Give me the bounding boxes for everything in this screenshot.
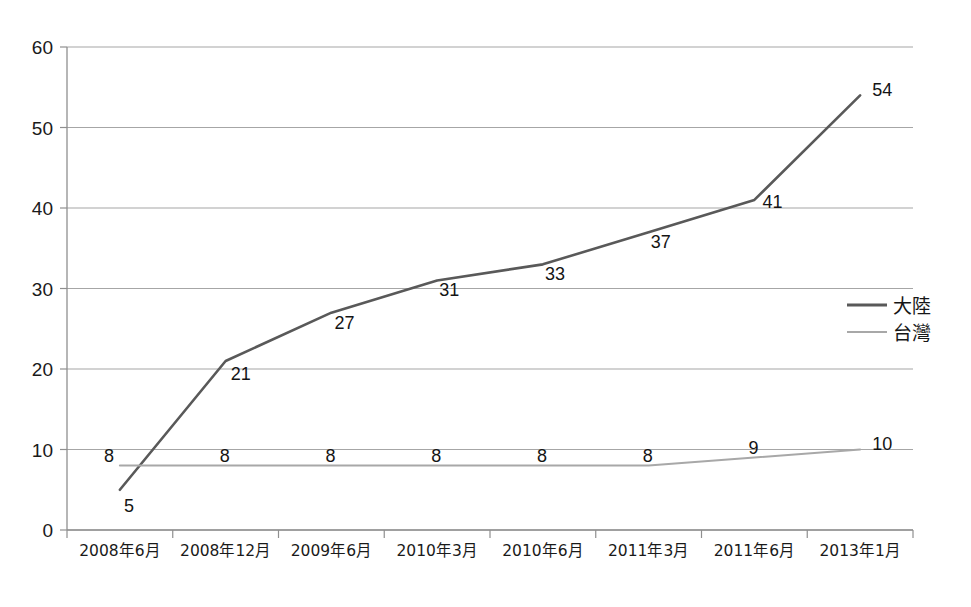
y-tick-label: 10 [32, 440, 53, 461]
data-label: 27 [334, 313, 354, 333]
x-tick-label: 2008年6月 [79, 542, 160, 560]
x-tick-label: 2008年12月 [180, 542, 271, 560]
x-tick-label: 2011年6月 [714, 542, 795, 560]
data-label: 8 [104, 446, 114, 466]
x-axis-group: 2008年6月2008年12月2009年6月2010年3月2010年6月2011… [67, 530, 913, 560]
series-group [120, 95, 860, 489]
x-tick-label: 2011年3月 [608, 542, 689, 560]
gridlines-group [67, 47, 913, 530]
data-label: 5 [124, 496, 134, 516]
data-label: 10 [872, 434, 892, 454]
data-label: 37 [651, 232, 671, 252]
legend: 大陸台灣 [847, 295, 931, 344]
data-label: 31 [439, 280, 459, 300]
y-axis-group: 0102030405060 [32, 37, 67, 541]
y-tick-label: 40 [32, 198, 53, 219]
y-tick-label: 30 [32, 279, 53, 300]
chart-canvas: 0102030405060 2008年6月2008年12月2009年6月2010… [0, 0, 971, 607]
data-label: 41 [762, 192, 782, 212]
y-tick-label: 50 [32, 118, 53, 139]
x-tick-label: 2010年6月 [502, 542, 583, 560]
y-tick-label: 60 [32, 37, 53, 58]
y-tick-label: 0 [42, 520, 53, 541]
x-tick-label: 2010年3月 [396, 542, 477, 560]
data-label: 33 [545, 264, 565, 284]
legend-label: 大陸 [893, 295, 931, 317]
legend-label: 台灣 [893, 322, 931, 344]
line-chart: 0102030405060 2008年6月2008年12月2009年6月2010… [0, 0, 971, 607]
x-tick-label: 2013年1月 [819, 542, 900, 560]
data-label: 54 [872, 80, 892, 100]
data-label: 8 [431, 446, 441, 466]
data-label: 8 [220, 446, 230, 466]
data-label: 21 [231, 364, 251, 384]
data-label: 8 [325, 446, 335, 466]
x-tick-label: 2009年6月 [291, 542, 372, 560]
y-tick-label: 20 [32, 359, 53, 380]
data-labels-group: 521273133374154888888910 [104, 80, 892, 515]
series-line-mainland [120, 95, 860, 489]
data-label: 9 [748, 438, 758, 458]
data-label: 8 [537, 446, 547, 466]
data-label: 8 [643, 446, 653, 466]
